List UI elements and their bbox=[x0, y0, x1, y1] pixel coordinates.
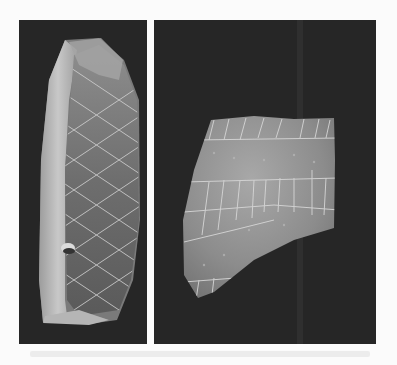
faint-caption-bleed bbox=[30, 351, 370, 357]
engraved-stone-image bbox=[19, 20, 147, 344]
right-artifact-photo bbox=[154, 20, 376, 344]
left-artifact-photo bbox=[19, 20, 147, 344]
engraved-fragment-image bbox=[154, 20, 376, 344]
